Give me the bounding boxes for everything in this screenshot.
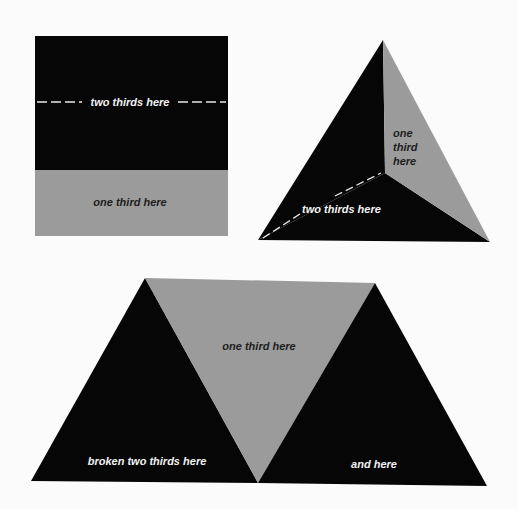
triangle-right-label-line1: one: [393, 127, 413, 139]
trapezoid-right-label: and here: [351, 458, 397, 470]
square-bottom-label: one third here: [93, 196, 166, 208]
triangle-figure: one third here two thirds here: [258, 40, 490, 242]
triangle-bottom-label: two thirds here: [302, 203, 381, 215]
trapezoid-center-label: one third here: [222, 340, 295, 352]
triangle-right-label-line3: here: [393, 155, 416, 167]
trapezoid-figure: one third here broken two thirds here an…: [31, 278, 487, 486]
thirds-diagram: two thirds here one third here one third…: [0, 0, 518, 509]
trapezoid-left-label: broken two thirds here: [88, 455, 207, 467]
triangle-right-label-line2: third: [393, 141, 418, 153]
square-figure: two thirds here one third here: [35, 36, 228, 236]
square-top-label: two thirds here: [91, 96, 170, 108]
